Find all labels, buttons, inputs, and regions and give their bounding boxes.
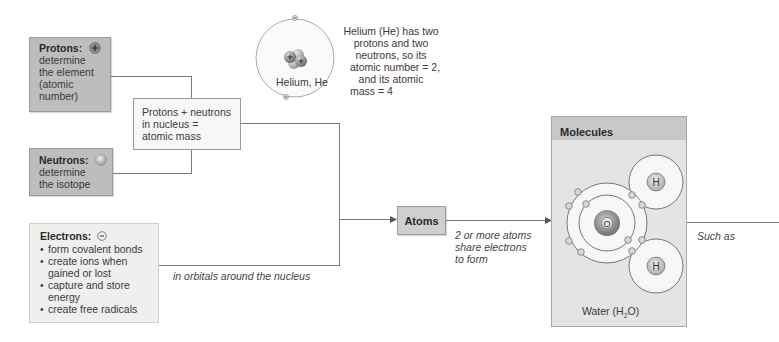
electrons-title-row: Electrons:	[40, 230, 158, 242]
helium-label: Helium, He	[276, 76, 328, 88]
protons-line: determine	[39, 54, 110, 66]
helium-caption-line: atomic number = 2,	[341, 61, 441, 73]
neutrons-title-row: Neutrons:	[39, 154, 112, 166]
plus-particle-icon	[89, 42, 101, 54]
helium-caption-line: and its atomic	[341, 73, 441, 85]
molecules-title: Molecules	[560, 126, 613, 138]
electrons-list: form covalent bonds create ions whengain…	[40, 243, 158, 315]
protons-line: the element	[39, 66, 110, 78]
connector-neutrons-v	[191, 150, 192, 173]
atomic-mass-line: atomic mass	[142, 130, 240, 142]
bullet-text: create free radicals	[48, 303, 137, 315]
neutrons-title: Neutrons:	[39, 154, 89, 166]
atomic-mass-line: in nucleus =	[142, 118, 240, 130]
hydrogen-symbol: H	[652, 177, 659, 188]
bullet-text: form covalent bonds	[48, 243, 143, 255]
electrons-bullet: create ions whengained or lost	[40, 255, 158, 279]
connector-atoms-to-molecules	[446, 220, 546, 221]
helium-caption-line: protons and two	[341, 37, 441, 49]
protons-line: number)	[39, 90, 110, 102]
bullet-text: energy	[48, 291, 80, 303]
protons-box: Protons: determine the element (atomic n…	[29, 37, 111, 112]
molecules-panel: Molecules O H H Water (H2O)	[551, 116, 687, 327]
atoms-label: Atoms	[404, 215, 438, 227]
bullet-text: gained or lost	[48, 267, 111, 279]
atomic-mass-box: Protons + neutrons in nucleus = atomic m…	[133, 98, 241, 150]
atomic-mass-line: Protons + neutrons	[142, 106, 240, 118]
protons-line: (atomic	[39, 78, 110, 90]
bullet-text: capture and store	[48, 279, 130, 291]
molecules-header: Molecules	[552, 117, 686, 140]
connector-electrons-h	[159, 265, 340, 266]
water-label-suffix: O)	[628, 305, 640, 317]
bullet-text: create ions when	[48, 255, 127, 267]
water-label-prefix: Water (H	[582, 305, 624, 317]
neutrons-line: determine	[39, 166, 112, 178]
neutrons-box: Neutrons: determine the isotope	[29, 148, 113, 196]
helium-caption-line: neutrons, so its	[341, 49, 441, 61]
protons-title-row: Protons:	[39, 42, 110, 54]
connector-protons-v	[191, 76, 192, 98]
helium-atom-diagram	[253, 10, 337, 108]
electrons-bullet: capture and storeenergy	[40, 279, 158, 303]
water-label: Water (H2O)	[582, 305, 639, 322]
orbitals-label: in orbitals around the nucleus	[173, 270, 310, 282]
hydrogen-symbol: H	[652, 261, 659, 272]
connector-mass-h	[241, 123, 340, 124]
such-as-label: Such as	[697, 230, 735, 242]
oxygen-symbol: O	[603, 219, 610, 229]
connector-such-as	[687, 222, 779, 223]
electrons-title: Electrons:	[40, 230, 91, 242]
share-label-line: to form	[455, 253, 531, 265]
atoms-box: Atoms	[397, 206, 446, 235]
helium-caption-line: mass = 4	[341, 85, 441, 97]
minus-particle-icon	[97, 231, 107, 241]
helium-caption: Helium (He) has two protons and two neut…	[341, 25, 441, 97]
share-label-line: share electrons	[455, 241, 531, 253]
connector-neutrons-h	[113, 173, 192, 174]
share-label: 2 or more atoms share electrons to form	[455, 229, 531, 265]
neutrons-line: the isotope	[39, 178, 112, 190]
connector-to-atoms	[340, 219, 392, 220]
water-molecule-diagram: O H H	[552, 140, 686, 305]
helium-caption-line: Helium (He) has two	[341, 25, 441, 37]
arrow-head-icon	[390, 216, 397, 223]
neutral-particle-icon	[95, 154, 107, 166]
connector-main-v	[339, 123, 340, 266]
protons-title: Protons:	[39, 42, 82, 54]
share-label-line: 2 or more atoms	[455, 229, 531, 241]
connector-protons-h	[111, 76, 191, 77]
electrons-bullet: form covalent bonds	[40, 243, 158, 255]
electrons-bullet: create free radicals	[40, 303, 158, 315]
electrons-box: Electrons: form covalent bonds create io…	[29, 223, 159, 323]
